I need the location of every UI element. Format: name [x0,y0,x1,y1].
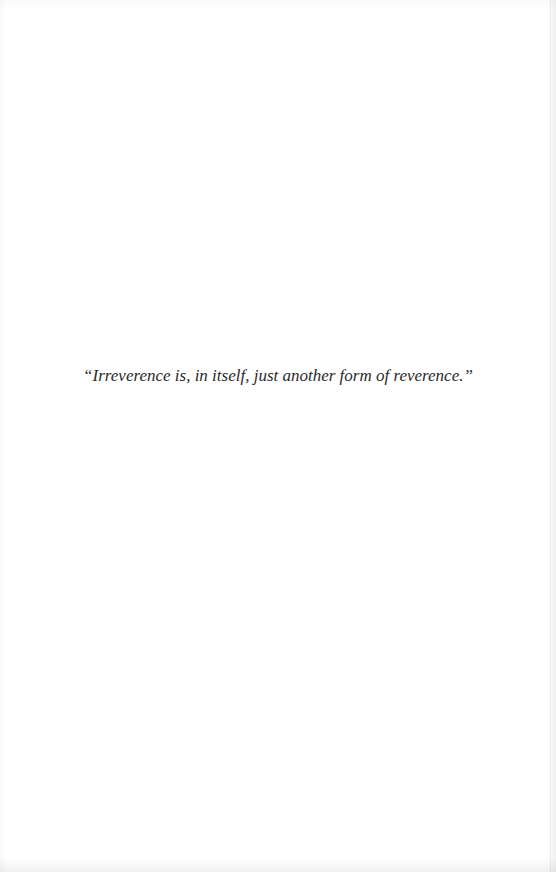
book-page: “Irreverence is, in itself, just another… [0,0,556,872]
page-edge-shading-left [0,0,6,872]
page-edge-line-right [550,0,551,872]
page-edge-shading-bottom [0,858,556,872]
epigraph-quote: “Irreverence is, in itself, just another… [0,366,556,386]
page-edge-shading-top [0,0,556,10]
